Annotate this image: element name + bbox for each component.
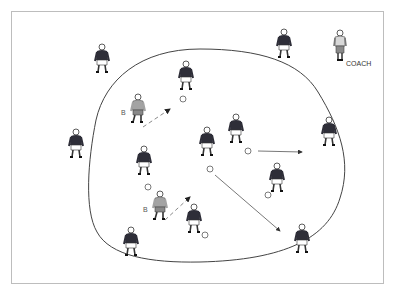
player-b-bottom-label: B	[143, 206, 148, 213]
ball-icon	[245, 148, 251, 154]
ball-icon	[180, 96, 186, 102]
ball-icon	[265, 192, 271, 198]
ball-icon	[145, 184, 151, 190]
ball-icon	[202, 232, 208, 238]
player-b-top-label: B	[121, 109, 126, 116]
field-frame	[12, 12, 384, 284]
coach-label: COACH	[346, 60, 371, 67]
soccer-drill-diagram: COACH B B	[0, 0, 399, 297]
ball-icon	[207, 166, 213, 172]
